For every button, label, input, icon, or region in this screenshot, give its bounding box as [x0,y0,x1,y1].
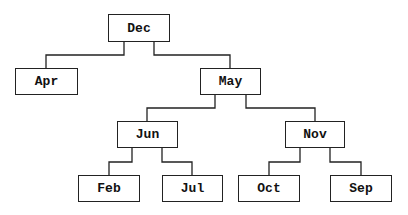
node-label: Feb [97,181,120,196]
node-dec: Dec [108,14,170,42]
edge-nov-oct [269,148,300,175]
edge-dec-may [154,42,230,68]
node-label: Nov [303,127,326,142]
node-jul: Jul [162,175,223,202]
node-may: May [200,68,261,95]
node-sep: Sep [330,175,392,202]
edge-dec-apr [46,42,124,68]
node-apr: Apr [15,68,78,95]
node-label: Oct [257,181,280,196]
node-jun: Jun [117,121,178,148]
edge-jun-feb [109,148,132,175]
edge-nov-sep [330,148,361,175]
node-label: Jun [136,127,159,142]
node-label: Dec [127,21,150,36]
edge-may-jun [147,95,215,121]
node-label: Sep [349,181,372,196]
edge-jun-jul [162,148,192,175]
node-label: Jul [181,181,204,196]
node-label: Apr [35,74,58,89]
node-nov: Nov [285,121,345,148]
node-label: May [219,74,242,89]
node-feb: Feb [78,175,140,202]
node-oct: Oct [238,175,300,202]
edge-may-nov [246,95,315,121]
